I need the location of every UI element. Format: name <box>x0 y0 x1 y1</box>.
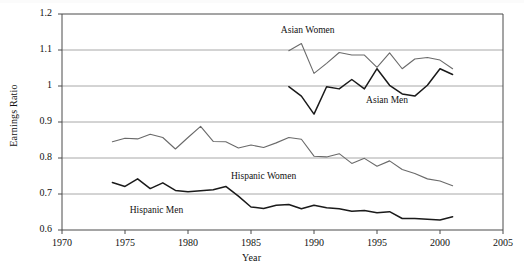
y-tick-label: 0.7 <box>18 187 52 198</box>
x-tick-label: 2005 <box>483 237 523 248</box>
y-axis-title: Earnings Ratio <box>8 76 19 156</box>
series-line-asian-women <box>289 44 453 74</box>
y-tick-label: 1 <box>18 79 52 90</box>
series-label-hispanic-women: Hispanic Women <box>231 171 296 181</box>
x-tick-label: 1995 <box>357 237 397 248</box>
x-tick-label: 1985 <box>231 237 271 248</box>
series-line-asian-men <box>289 69 453 114</box>
y-tick-label: 1.1 <box>18 43 52 54</box>
x-tick-label: 1975 <box>105 237 145 248</box>
chart-plot-svg <box>0 0 524 273</box>
y-tick-label: 0.9 <box>18 115 52 126</box>
y-tick-label: 1.2 <box>18 7 52 18</box>
x-axis-title: Year <box>242 252 261 263</box>
x-tick-label: 1990 <box>294 237 334 248</box>
series-label-asian-women: Asian Women <box>281 25 335 35</box>
chart-container: Earnings Ratio Year 0.60.70.80.911.11.2 … <box>0 0 524 273</box>
series-label-hispanic-men: Hispanic Men <box>130 205 184 215</box>
y-tick-label: 0.8 <box>18 151 52 162</box>
x-tick-label: 2000 <box>420 237 460 248</box>
x-tick-label: 1980 <box>168 237 208 248</box>
x-tick-label: 1970 <box>42 237 82 248</box>
y-tick-label: 0.6 <box>18 223 52 234</box>
series-label-asian-men: Asian Men <box>366 95 408 105</box>
